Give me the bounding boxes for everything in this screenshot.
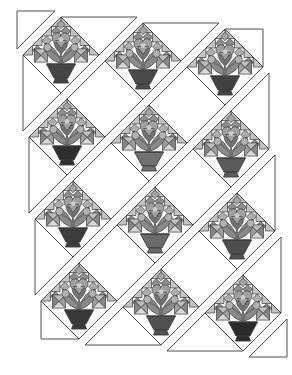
sawtooth-patch — [209, 212, 219, 222]
sawtooth-patch — [41, 292, 51, 302]
bud-right — [159, 132, 167, 140]
bloom-highlight — [147, 125, 152, 130]
sawtooth-patch — [206, 39, 216, 49]
sawtooth-patch — [48, 109, 58, 119]
sawtooth-patch — [105, 52, 115, 62]
bud-right — [77, 126, 85, 134]
sawtooth-patch — [127, 206, 137, 216]
pot-foot — [66, 242, 81, 247]
bloom-highlight — [59, 37, 64, 42]
pot-foot — [154, 330, 169, 335]
sawtooth-patch — [60, 273, 70, 283]
bud-right — [247, 220, 255, 228]
sawtooth-patch — [215, 294, 225, 304]
sawtooth-patch — [121, 124, 131, 134]
pot-foot — [230, 254, 245, 259]
pot-foot — [218, 90, 233, 95]
sawtooth-patch — [45, 200, 55, 210]
pot-foot — [72, 324, 87, 329]
sawtooth-patch — [187, 58, 197, 68]
sawtooth-patch — [51, 282, 61, 292]
bud-right — [153, 50, 161, 58]
bud-right — [171, 296, 179, 304]
sawtooth-patch — [35, 210, 45, 220]
pot-foot — [54, 78, 69, 83]
bloom-highlight — [141, 43, 146, 48]
bud-left — [62, 290, 70, 298]
sawtooth-patch — [197, 48, 207, 58]
sawtooth-patch — [212, 121, 222, 131]
bud-left — [56, 208, 64, 216]
sawtooth-patch — [136, 197, 146, 207]
pot-foot — [136, 84, 151, 89]
bud-right — [241, 138, 249, 146]
bloom-highlight — [235, 213, 240, 218]
bloom-highlight — [77, 283, 82, 288]
sawtooth-patch — [39, 118, 49, 128]
sawtooth-patch — [205, 304, 215, 314]
sawtooth-patch — [42, 27, 52, 37]
bud-left — [44, 44, 52, 52]
bud-right — [89, 290, 97, 298]
bloom-highlight — [159, 289, 164, 294]
quilt-diagram-page — [0, 0, 292, 375]
bloom-highlight — [229, 131, 234, 136]
sawtooth-patch — [115, 42, 125, 52]
sawtooth-patch — [218, 203, 228, 213]
sawtooth-patch — [29, 128, 39, 138]
bloom-highlight — [71, 201, 76, 206]
bud-left — [144, 296, 152, 304]
sawtooth-patch — [23, 46, 33, 56]
sawtooth-patch — [117, 216, 127, 226]
bloom-highlight — [223, 49, 228, 54]
sawtooth-patch — [130, 115, 140, 125]
sawtooth-patch — [203, 130, 213, 140]
bud-left — [50, 126, 58, 134]
bud-right — [253, 302, 261, 310]
bud-left — [220, 220, 228, 228]
sawtooth-patch — [123, 298, 133, 308]
sawtooth-patch — [133, 288, 143, 298]
sawtooth-patch — [54, 191, 64, 201]
sawtooth-patch — [199, 222, 209, 232]
pot-foot — [236, 336, 251, 341]
bud-right — [235, 56, 243, 64]
sawtooth-patch — [124, 33, 134, 43]
bloom-highlight — [241, 295, 246, 300]
bloom-highlight — [153, 207, 158, 212]
bloom-highlight — [65, 119, 70, 124]
sawtooth-patch — [193, 140, 203, 150]
pot-foot — [60, 160, 75, 165]
pot-foot — [148, 248, 163, 253]
bud-left — [214, 138, 222, 146]
quilt-assembly-diagram — [0, 0, 292, 375]
bud-right — [71, 44, 79, 52]
bud-left — [126, 50, 134, 58]
pot-foot — [142, 166, 157, 171]
sawtooth-patch — [33, 36, 43, 46]
sawtooth-patch — [142, 279, 152, 289]
bud-left — [138, 214, 146, 222]
bud-left — [208, 56, 216, 64]
bud-left — [226, 302, 234, 310]
bud-right — [83, 208, 91, 216]
sawtooth-patch — [111, 134, 121, 144]
bud-right — [165, 214, 173, 222]
sawtooth-patch — [224, 285, 234, 295]
pot-foot — [224, 172, 239, 177]
bud-left — [132, 132, 140, 140]
